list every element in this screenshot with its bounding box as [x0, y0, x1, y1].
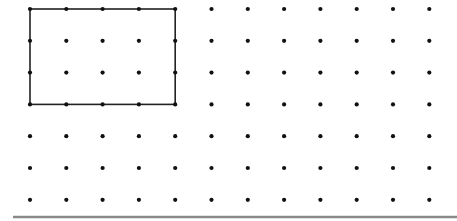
grid-dot	[101, 102, 105, 106]
grid-dot	[355, 102, 359, 106]
grid-dot	[173, 71, 177, 75]
grid-dot	[64, 166, 68, 170]
grid-dot	[318, 134, 322, 138]
grid-dot	[64, 7, 68, 11]
grid-dot	[209, 39, 213, 43]
grid-dot	[209, 198, 213, 202]
grid-dot	[246, 102, 250, 106]
grid-dot	[28, 71, 32, 75]
grid-dot	[246, 134, 250, 138]
grid-dot	[355, 7, 359, 11]
grid-dot	[355, 198, 359, 202]
grid-dot	[282, 166, 286, 170]
grid-dot	[137, 166, 141, 170]
grid-dot	[173, 7, 177, 11]
grid-dot	[427, 198, 431, 202]
grid-dot	[101, 71, 105, 75]
grid-dot	[173, 39, 177, 43]
grid-dot	[28, 198, 32, 202]
grid-dot	[282, 71, 286, 75]
grid-dot	[391, 7, 395, 11]
dot-grid-canvas	[0, 0, 457, 221]
grid-dot	[137, 39, 141, 43]
grid-dot	[318, 71, 322, 75]
grid-dot	[427, 39, 431, 43]
grid-dot	[318, 198, 322, 202]
grid-dot	[355, 71, 359, 75]
grid-dot	[282, 39, 286, 43]
grid-dot	[318, 7, 322, 11]
grid-dot	[64, 102, 68, 106]
grid-dot	[427, 166, 431, 170]
grid-dot	[28, 7, 32, 11]
grid-dot	[209, 7, 213, 11]
grid-dot	[173, 134, 177, 138]
grid-dot	[246, 71, 250, 75]
grid-dot	[318, 166, 322, 170]
grid-dot	[209, 134, 213, 138]
grid-dot	[64, 134, 68, 138]
grid-dot	[427, 7, 431, 11]
grid-dot	[282, 102, 286, 106]
grid-dot	[355, 39, 359, 43]
grid-dot	[64, 71, 68, 75]
grid-dot	[391, 71, 395, 75]
grid-dot	[173, 198, 177, 202]
grid-dot	[282, 7, 286, 11]
grid-dot	[355, 134, 359, 138]
grid-dot	[391, 102, 395, 106]
rectangle-outline	[30, 9, 175, 104]
grid-dot	[137, 198, 141, 202]
grid-dot	[282, 134, 286, 138]
grid-dot	[28, 166, 32, 170]
grid-dot	[173, 102, 177, 106]
grid-dot	[282, 198, 286, 202]
grid-dot	[391, 198, 395, 202]
dot-grid-diagram	[0, 0, 457, 221]
grid-dot	[137, 134, 141, 138]
grid-dot	[355, 166, 359, 170]
grid-dot	[28, 134, 32, 138]
grid-dot	[173, 166, 177, 170]
grid-dot	[28, 102, 32, 106]
grid-dot	[318, 39, 322, 43]
grid-dot	[101, 198, 105, 202]
grid-dot	[209, 71, 213, 75]
grid-dot	[101, 39, 105, 43]
grid-dot	[101, 166, 105, 170]
grid-dot	[101, 134, 105, 138]
grid-dot	[101, 7, 105, 11]
grid-dot	[137, 102, 141, 106]
grid-dot	[64, 198, 68, 202]
grid-dot	[391, 39, 395, 43]
grid-dot	[391, 134, 395, 138]
grid-dot	[427, 102, 431, 106]
grid-dot	[137, 71, 141, 75]
grid-dot	[64, 39, 68, 43]
grid-dot	[137, 7, 141, 11]
rectangle-shape	[30, 9, 175, 104]
grid-dot	[391, 166, 395, 170]
grid-dot	[246, 7, 250, 11]
grid-dot	[209, 102, 213, 106]
grid-dot	[209, 166, 213, 170]
grid-dot	[246, 198, 250, 202]
grid-dot	[318, 102, 322, 106]
grid-dot	[427, 134, 431, 138]
grid-dot	[246, 166, 250, 170]
grid-dot	[246, 39, 250, 43]
grid-dot	[427, 71, 431, 75]
grid-dot	[28, 39, 32, 43]
